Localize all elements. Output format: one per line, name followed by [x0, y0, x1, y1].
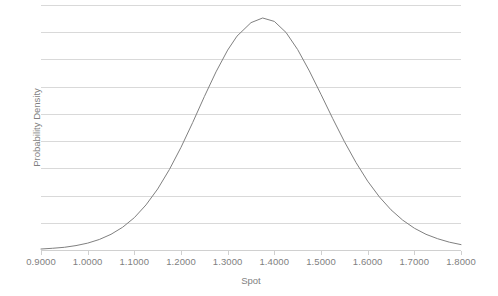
x-axis-tick-label: 1.0000: [73, 256, 103, 267]
density-curve-line: [41, 18, 461, 249]
x-axis-tick-label: 0.9000: [26, 256, 56, 267]
x-axis-tick-labels: 0.90001.00001.10001.20001.30001.40001.50…: [41, 256, 461, 270]
x-axis-tick-label: 1.2000: [166, 256, 196, 267]
x-axis-tick-label: 1.6000: [353, 256, 383, 267]
x-axis-tick: [274, 251, 275, 255]
x-axis-tick-label: 1.8000: [446, 256, 476, 267]
density-curve-svg: [41, 5, 461, 250]
x-axis-tick: [461, 251, 462, 255]
y-axis-title: Probability Density: [31, 5, 45, 250]
x-axis-tick-label: 1.5000: [306, 256, 336, 267]
plot-area: [41, 5, 461, 250]
x-axis-tick-label: 1.1000: [119, 256, 149, 267]
x-axis-tick: [41, 251, 42, 255]
x-axis-tick: [181, 251, 182, 255]
x-axis-tick: [321, 251, 322, 255]
probability-density-chart: 0.90001.00001.10001.20001.30001.40001.50…: [0, 0, 498, 296]
x-axis-tick: [368, 251, 369, 255]
x-axis-tick: [414, 251, 415, 255]
x-axis-tick-label: 1.4000: [259, 256, 289, 267]
x-axis-tick-label: 1.3000: [213, 256, 243, 267]
x-axis-tick: [228, 251, 229, 255]
x-axis-tick-label: 1.7000: [399, 256, 429, 267]
x-axis-tick: [88, 251, 89, 255]
x-axis-ticks: [41, 251, 461, 255]
x-axis-title: Spot: [41, 275, 461, 286]
x-axis-tick: [134, 251, 135, 255]
